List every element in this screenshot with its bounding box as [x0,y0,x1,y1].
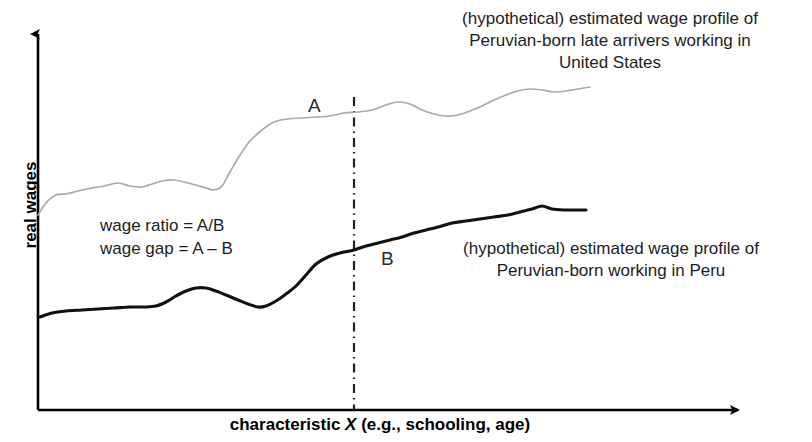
wage-ratio-gap-formulas: wage ratio = A/B wage gap = A – B [100,214,360,260]
y-axis-title: real wages [21,145,41,265]
x-axis-title-prefix: characteristic [230,415,345,434]
annotation-peru-wage-profile: (hypothetical) estimated wage profile of… [420,238,802,282]
x-axis-title-variable: X [345,415,356,434]
annotation-us-wage-profile: (hypothetical) estimated wage profile of… [420,8,800,74]
curve-b-label: B [381,248,394,270]
x-axis-title: characteristic X (e.g., schooling, age) [0,415,760,435]
wage-profile-chart: (hypothetical) estimated wage profile of… [0,0,812,442]
curve-a-label: A [308,95,321,117]
x-axis-title-suffix: (e.g., schooling, age) [356,415,530,434]
